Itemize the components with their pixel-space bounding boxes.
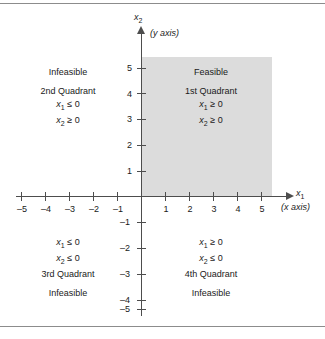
quadrant-4-constraint-2-op: ≤ 0: [210, 253, 222, 263]
quadrant-figure: –5 –4 –3 –2 –1 1 2 3 4 5 5 4 3 2 1 –1 –2…: [0, 0, 325, 339]
y-axis-paren-text: (y axis): [150, 28, 179, 38]
quadrant-1-constraint-2-op: ≥ 0: [210, 115, 222, 125]
quadrant-3-annotation: x1 ≤ 0 x2 ≤ 0 3rd Quadrant Infeasible: [14, 236, 122, 300]
x-tick-minus5: [21, 192, 22, 201]
quadrant-4-annotation: x1 ≥ 0 x2 ≤ 0 4th Quadrant Infeasible: [157, 236, 265, 300]
x-tick-label-minus5: –5: [14, 204, 30, 214]
y-tick-minus3: [137, 274, 146, 275]
quadrant-3-constraint-1-sub: 1: [61, 242, 65, 249]
x-axis-paren-label: (x axis): [281, 202, 310, 213]
quadrant-2-constraint-1: x1 ≤ 0: [14, 98, 122, 114]
x-axis-arrowhead: [286, 192, 294, 200]
quadrant-4-constraint-1: x1 ≥ 0: [157, 236, 265, 252]
quadrant-1-name: 1st Quadrant: [157, 85, 265, 98]
quadrant-4-constraint-1-sub: 1: [204, 242, 208, 249]
quadrant-2-constraint-1-sub: 1: [61, 104, 65, 111]
quadrant-2-constraint-2: x2 ≥ 0: [14, 114, 122, 130]
x-tick-label-minus1: –1: [110, 204, 126, 214]
quadrant-4-constraint-2-sub: 2: [204, 258, 208, 265]
quadrant-2-constraint-2-op: ≥ 0: [67, 115, 79, 125]
quadrant-1-constraint-1: x1 ≥ 0: [157, 98, 265, 114]
x-tick-5: [261, 192, 262, 201]
y-tick-label-2: 2: [116, 140, 132, 150]
y-tick-2: [137, 145, 146, 146]
x-tick-label-1: 1: [158, 204, 174, 214]
quadrant-4-constraint-1-op: ≥ 0: [210, 237, 222, 247]
y-axis-arrowhead: [137, 26, 145, 34]
x-tick-4: [237, 192, 238, 201]
x-tick-label-5: 5: [254, 204, 270, 214]
quadrant-4-status: Infeasible: [157, 287, 265, 300]
quadrant-3-constraint-1-op: ≤ 0: [67, 237, 79, 247]
y-axis-paren-label: (y axis): [150, 28, 179, 39]
quadrant-1-constraint-1-op: ≥ 0: [210, 99, 222, 109]
quadrant-2-annotation: Infeasible 2nd Quadrant x1 ≤ 0 x2 ≥ 0: [14, 66, 122, 130]
y-tick-label-1: 1: [116, 166, 132, 176]
x-tick-minus1: [117, 192, 118, 201]
quadrant-3-constraint-2: x2 ≤ 0: [14, 252, 122, 268]
x-tick-minus4: [45, 192, 46, 201]
y-tick-label-minus1: –1: [114, 217, 130, 227]
x-axis-line: [16, 196, 288, 197]
y-tick-3: [137, 119, 146, 120]
x-tick-label-4: 4: [230, 204, 246, 214]
x-tick-3: [213, 192, 214, 201]
quadrant-3-name: 3rd Quadrant: [14, 268, 122, 281]
x-tick-label-minus4: –4: [38, 204, 54, 214]
quadrant-3-constraint-1: x1 ≤ 0: [14, 236, 122, 252]
x-tick-label-minus2: –2: [86, 204, 102, 214]
y-tick-1: [137, 171, 146, 172]
quadrant-1-constraint-2-sub: 2: [204, 120, 208, 127]
x-tick-label-minus3: –3: [62, 204, 78, 214]
quadrant-1-constraint-1-sub: 1: [204, 104, 208, 111]
x-axis-label-subscript: 1: [301, 193, 305, 200]
quadrant-4-name: 4th Quadrant: [157, 268, 265, 281]
quadrant-1-annotation: Feasible 1st Quadrant x1 ≥ 0 x2 ≥ 0: [157, 66, 265, 130]
quadrant-3-status: Infeasible: [14, 287, 122, 300]
y-tick-4: [137, 93, 146, 94]
quadrant-4-constraint-2: x2 ≤ 0: [157, 252, 265, 268]
y-axis-label: x2: [134, 12, 142, 26]
quadrant-2-status: Infeasible: [14, 66, 122, 79]
x-tick-2: [189, 192, 190, 201]
quadrant-1-status: Feasible: [157, 66, 265, 79]
quadrant-1-constraint-2: x2 ≥ 0: [157, 114, 265, 130]
y-tick-5: [137, 68, 146, 69]
quadrant-2-constraint-1-op: ≤ 0: [67, 99, 79, 109]
x-tick-minus3: [69, 192, 70, 201]
x-tick-1: [165, 192, 166, 201]
quadrant-2-name: 2nd Quadrant: [14, 85, 122, 98]
x-tick-label-3: 3: [206, 204, 222, 214]
y-tick-minus5: [137, 309, 146, 310]
y-axis-label-subscript: 2: [139, 17, 143, 24]
x-tick-label-2: 2: [182, 204, 198, 214]
y-tick-minus1: [137, 222, 146, 223]
coordinate-plane: –5 –4 –3 –2 –1 1 2 3 4 5 5 4 3 2 1 –1 –2…: [0, 4, 325, 326]
y-tick-minus2: [137, 248, 146, 249]
figure-bottom-rule: [0, 326, 325, 327]
y-tick-minus4: [137, 300, 146, 301]
quadrant-3-constraint-2-sub: 2: [61, 258, 65, 265]
x-axis-label: x1: [296, 188, 304, 202]
quadrant-2-constraint-2-sub: 2: [61, 120, 65, 127]
x-tick-minus2: [93, 192, 94, 201]
quadrant-3-constraint-2-op: ≤ 0: [67, 253, 79, 263]
x-axis-paren-text: (x axis): [281, 202, 310, 212]
y-tick-label-minus5: –5: [114, 304, 130, 314]
